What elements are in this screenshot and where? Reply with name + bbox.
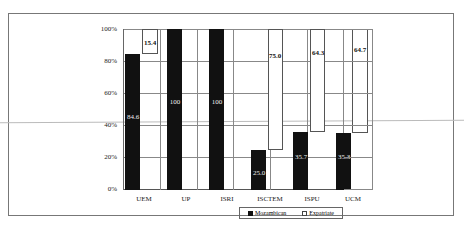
y-tick: 80% — [87, 57, 117, 65]
bar-expatriate-ucm — [352, 29, 368, 133]
x-tick: UCM — [333, 195, 373, 203]
bar-mozambican-ispu — [293, 132, 308, 190]
bar-expatriate-isctem — [268, 29, 283, 150]
y-axis-line — [123, 29, 124, 190]
legend-item-mozambican: Mozambican — [248, 210, 286, 216]
bar-mozambican-isri — [209, 29, 224, 190]
value-label: 100 — [202, 98, 232, 106]
y-tick: 40% — [87, 121, 117, 129]
value-label: 75.0 — [260, 52, 290, 60]
ucm-right-border — [372, 29, 373, 190]
y-tick: 100% — [87, 25, 117, 33]
y-tick: 60% — [87, 89, 117, 97]
y-tick: 0% — [87, 185, 117, 193]
plot-area: 84.6 15.4 100 100 25.0 75.0 35.7 64.3 — [123, 29, 344, 190]
bar-expatriate-ispu — [310, 29, 325, 132]
x-tick: UEM — [124, 195, 164, 203]
legend-item-expatriate: Expatriate — [302, 210, 334, 216]
x-tick: UP — [166, 195, 206, 203]
value-label: 35.3 — [329, 153, 359, 161]
y-tick: 20% — [87, 153, 117, 161]
value-label: 15.4 — [135, 39, 165, 47]
value-label: 100 — [160, 98, 190, 106]
value-label: 25.0 — [244, 169, 274, 177]
swatch-black-icon — [248, 211, 253, 216]
bar-mozambican-up — [167, 29, 182, 190]
legend-label: Mozambican — [255, 210, 286, 216]
x-tick: ISPU — [292, 195, 332, 203]
x-tick: ISCTEM — [250, 195, 290, 203]
value-label: 64.3 — [303, 49, 333, 57]
bar-mozambican-ucm — [336, 133, 351, 190]
legend: Mozambican Expatriate — [239, 207, 343, 219]
swatch-white-icon — [302, 211, 307, 216]
value-label: 35.7 — [286, 153, 316, 161]
x-tick: ISRI — [207, 195, 247, 203]
category-separator — [160, 29, 161, 190]
legend-label: Expatriate — [309, 210, 334, 216]
value-label: 64.7 — [345, 46, 375, 54]
category-separator — [233, 29, 234, 190]
value-label: 84.6 — [118, 113, 148, 121]
category-separator — [197, 29, 198, 190]
bar-mozambican-uem — [125, 54, 140, 190]
